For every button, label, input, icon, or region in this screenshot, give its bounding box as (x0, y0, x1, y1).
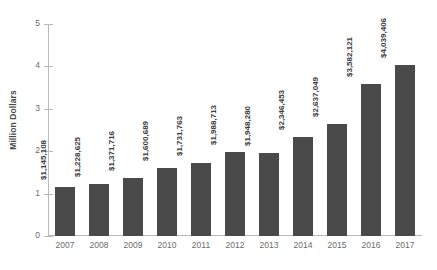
bar-value-label: $1,948,280 (240, 110, 249, 150)
y-axis-tick-label: 0 (26, 230, 40, 240)
x-axis-tick-label: 2010 (150, 240, 184, 250)
bar-chart: Million Dollars 012345 $1,145,108$1,228,… (0, 0, 437, 270)
y-axis-title: Million Dollars (2, 0, 24, 240)
x-axis-tick-label: 2014 (286, 240, 320, 250)
bar-value-text: $2,346,453 (277, 89, 286, 129)
x-axis-tick-label: 2013 (252, 240, 286, 250)
bar-value-label: $1,371,716 (104, 135, 113, 175)
bar-value-label: $3,582,121 (342, 41, 351, 81)
bar-value-text: $1,988,713 (209, 105, 218, 145)
bar-value-label: $2,346,453 (274, 93, 283, 133)
bar[interactable] (259, 153, 279, 236)
bar-slot: $4,039,406 (395, 24, 415, 236)
x-axis-tick-label: 2017 (388, 240, 422, 250)
x-axis-tick-label: 2011 (184, 240, 218, 250)
x-axis-tick-label: 2012 (218, 240, 252, 250)
y-axis-tick-label: 4 (26, 60, 40, 70)
bar-slot: $2,346,453 (293, 24, 313, 236)
y-axis-tick-label: 5 (26, 18, 40, 28)
y-axis-tick-label: 3 (26, 103, 40, 113)
x-axis-tick-label: 2008 (82, 240, 116, 250)
bar-value-text: $3,582,121 (345, 37, 354, 77)
bar-value-text: $1,600,689 (141, 121, 150, 161)
bar-value-label: $4,039,406 (376, 22, 385, 62)
bar[interactable] (123, 178, 143, 236)
y-axis-title-label: Million Dollars (8, 90, 18, 150)
bar-value-text: $1,145,108 (39, 140, 48, 180)
bar-slot: $1,145,108 (55, 24, 75, 236)
bar-value-label: $1,731,763 (172, 120, 181, 160)
bar[interactable] (293, 137, 313, 236)
bar-value-label: $2,637,049 (308, 81, 317, 121)
bar-value-text: $1,948,280 (243, 106, 252, 146)
x-axis-tick-label: 2007 (48, 240, 82, 250)
y-axis-tick-mark (44, 236, 53, 237)
bar-value-label: $1,145,108 (36, 144, 45, 184)
bar[interactable] (225, 152, 245, 236)
bar[interactable] (361, 84, 381, 236)
bar-value-text: $1,371,716 (107, 131, 116, 171)
bar[interactable] (55, 187, 75, 236)
bar-value-text: $4,039,406 (379, 18, 388, 58)
bar-value-text: $1,228,625 (73, 137, 82, 177)
x-axis-tick-label: 2015 (320, 240, 354, 250)
bar[interactable] (395, 65, 415, 236)
bar-value-text: $2,637,049 (311, 77, 320, 117)
bar-slot: $1,228,625 (89, 24, 109, 236)
x-axis-tick-label: 2016 (354, 240, 388, 250)
bar-series: $1,145,108$1,228,625$1,371,716$1,600,689… (48, 24, 422, 236)
bar[interactable] (327, 124, 347, 236)
bar[interactable] (157, 168, 177, 236)
x-axis-tick-label: 2009 (116, 240, 150, 250)
y-axis-tick-label: 1 (26, 188, 40, 198)
bar-value-label: $1,988,713 (206, 109, 215, 149)
bar[interactable] (89, 184, 109, 236)
bar[interactable] (191, 163, 211, 236)
x-axis-ticks: 2007200820092010201120122013201420152016… (48, 240, 422, 256)
plot-area: 012345 $1,145,108$1,228,625$1,371,716$1,… (48, 24, 422, 236)
bar-value-text: $1,731,763 (175, 116, 184, 156)
bar-value-label: $1,600,689 (138, 125, 147, 165)
bar-value-label: $1,228,625 (70, 141, 79, 181)
